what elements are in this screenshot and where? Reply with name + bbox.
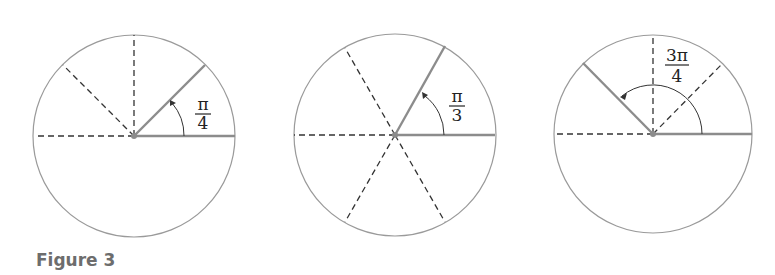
figure-diagram: π 4 π 3 3π 4 <box>0 0 775 275</box>
circle-pi-over-4: π 4 <box>33 35 235 237</box>
angle-label-denominator: 4 <box>198 113 209 133</box>
angle-label-numerator: 3π <box>666 45 688 65</box>
figure-caption: Figure 3 <box>36 250 115 270</box>
angle-label-numerator: π <box>451 86 462 106</box>
angle-label-denominator: 4 <box>672 66 683 86</box>
circle-pi-over-3: π 3 <box>294 34 496 236</box>
circle-3pi-over-4: 3π 4 <box>554 35 752 233</box>
angle-label-denominator: 3 <box>452 105 463 125</box>
angle-label-numerator: π <box>197 94 208 114</box>
